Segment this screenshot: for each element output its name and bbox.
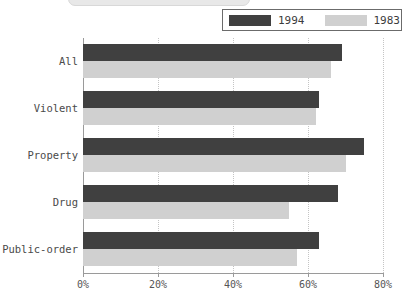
x-axis-tick [308,273,309,277]
x-axis-tick [158,273,159,277]
bar-drug-1983 [83,202,289,219]
category-label-all: All [59,55,78,67]
bar-all-1983 [83,61,331,78]
x-axis-tick-label: 80% [374,279,392,290]
legend-swatch-1983 [325,15,367,26]
bar-property-1994 [83,138,364,155]
x-axis-tick [233,273,234,277]
plot-area [83,38,383,273]
category-label-property: Property [27,149,78,161]
category-label-public-order: Public-order [2,243,78,255]
clipped-title-box [68,0,250,6]
legend-label-1994: 1994 [278,14,305,27]
y-axis-category-labels: AllViolentPropertyDrugPublic-order [0,38,78,273]
bar-violent-1983 [83,108,316,125]
chart-legend: 1994 1983 [222,9,402,31]
gridline [383,38,384,273]
bar-public-order-1983 [83,249,297,266]
bar-drug-1994 [83,185,338,202]
x-axis-tick [83,273,84,277]
x-axis-tick-label: 60% [299,279,317,290]
category-label-drug: Drug [53,196,78,208]
x-axis-tick-label: 40% [224,279,242,290]
x-axis-tick-label: 20% [149,279,167,290]
x-axis-tick-label: 0% [77,279,89,290]
x-axis-tick [383,273,384,277]
bar-all-1994 [83,44,342,61]
bar-property-1983 [83,155,346,172]
legend-entry-1994[interactable]: 1994 [223,10,305,30]
legend-swatch-1994 [229,15,271,26]
legend-label-1983: 1983 [374,14,401,27]
legend-entry-1983[interactable]: 1983 [319,10,401,30]
bar-public-order-1994 [83,232,319,249]
bar-violent-1994 [83,91,319,108]
category-label-violent: Violent [34,102,78,114]
